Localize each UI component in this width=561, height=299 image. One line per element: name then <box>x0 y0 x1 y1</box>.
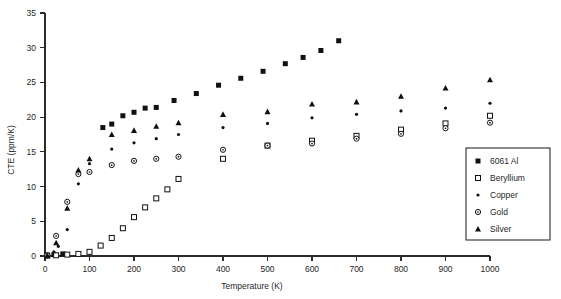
marker-open-square <box>132 215 137 220</box>
marker-filled-square <box>143 106 148 111</box>
marker-open-circle-dot <box>176 154 181 159</box>
marker-small-dot <box>221 126 224 129</box>
marker-open-circle-dot <box>354 136 359 141</box>
y-tick-label: 20 <box>27 112 37 122</box>
legend-label: Gold <box>490 207 508 217</box>
marker-filled-square <box>194 91 199 96</box>
marker-small-dot <box>155 137 158 140</box>
marker-small-dot <box>476 193 479 196</box>
marker-open-circle-dot <box>65 199 70 204</box>
marker-small-dot <box>399 109 402 112</box>
y-tick-label: 30 <box>27 43 37 53</box>
x-tick-label: 100 <box>82 264 96 274</box>
marker-open-square <box>154 196 159 201</box>
marker-filled-square <box>100 125 105 130</box>
x-tick-label: 0 <box>43 264 48 274</box>
y-tick-label: 10 <box>27 182 37 192</box>
marker-small-dot <box>310 116 313 119</box>
marker-open-circle-dot <box>309 141 314 146</box>
marker-small-dot <box>488 102 491 105</box>
marker-open-circle-dot <box>443 126 448 131</box>
marker-filled-square <box>318 48 323 53</box>
marker-filled-square <box>132 110 137 115</box>
marker-open-square <box>87 249 92 254</box>
y-tick-label: 0 <box>31 251 36 261</box>
marker-small-dot <box>132 141 135 144</box>
marker-filled-square <box>476 159 481 164</box>
marker-filled-square <box>172 98 177 103</box>
marker-filled-square <box>154 105 159 110</box>
marker-open-circle-dot <box>131 158 136 163</box>
marker-small-dot <box>77 182 80 185</box>
marker-open-square <box>143 205 148 210</box>
legend-label: Silver <box>490 224 511 234</box>
marker-filled-square <box>336 38 341 43</box>
marker-open-square <box>98 243 103 248</box>
x-tick-label: 200 <box>127 264 141 274</box>
y-axis-title: CTE (ppm/K) <box>6 125 16 175</box>
marker-small-dot <box>355 113 358 116</box>
marker-open-circle-dot <box>265 143 270 148</box>
marker-small-dot <box>110 147 113 150</box>
x-tick-label: 800 <box>394 264 408 274</box>
marker-open-circle-dot <box>154 156 159 161</box>
marker-open-square <box>221 156 226 161</box>
y-tick-label: 35 <box>27 8 37 18</box>
marker-open-circle-dot <box>87 169 92 174</box>
legend-label: 6061 Al <box>490 156 518 166</box>
marker-open-circle-dot <box>398 131 403 136</box>
marker-open-square <box>54 253 59 258</box>
x-tick-label: 500 <box>260 264 274 274</box>
marker-filled-square <box>238 76 243 81</box>
x-axis-title: Temperature (K) <box>221 281 283 291</box>
y-tick-label: 15 <box>27 147 37 157</box>
chart-legend[interactable]: 6061 AlBerylliumCopperGoldSilver <box>466 148 550 240</box>
marker-small-dot <box>266 122 269 125</box>
legend-label: Beryllium <box>490 173 525 183</box>
marker-open-square <box>488 113 493 118</box>
marker-small-dot <box>444 107 447 110</box>
chart-figure: 05101520253035 0100200300400500600700800… <box>0 0 561 299</box>
marker-open-circle-dot <box>109 162 114 167</box>
marker-open-square <box>65 252 70 257</box>
marker-open-circle-dot <box>475 209 480 214</box>
x-tick-label: 300 <box>171 264 185 274</box>
legend-label: Copper <box>490 190 518 200</box>
marker-small-dot <box>177 133 180 136</box>
marker-open-circle-dot <box>54 233 59 238</box>
cte-temperature-scatter-plot: 05101520253035 0100200300400500600700800… <box>0 0 561 299</box>
marker-open-square <box>443 121 448 126</box>
x-tick-label: 1000 <box>481 264 500 274</box>
marker-open-square <box>76 251 81 256</box>
x-tick-label: 900 <box>438 264 452 274</box>
marker-open-square <box>165 187 170 192</box>
y-tick-label: 25 <box>27 77 37 87</box>
marker-open-circle-dot <box>220 147 225 152</box>
marker-filled-square <box>301 55 306 60</box>
x-tick-label: 700 <box>349 264 363 274</box>
marker-open-square <box>109 235 114 240</box>
marker-small-dot <box>66 228 69 231</box>
marker-filled-square <box>283 61 288 66</box>
marker-small-dot <box>52 250 55 253</box>
x-tick-label: 600 <box>305 264 319 274</box>
y-tick-label: 5 <box>31 216 36 226</box>
marker-open-square <box>476 176 481 181</box>
marker-open-circle-dot <box>487 120 492 125</box>
marker-open-square <box>176 176 181 181</box>
marker-filled-square <box>109 122 114 127</box>
x-tick-label: 400 <box>216 264 230 274</box>
marker-open-square <box>120 226 125 231</box>
marker-filled-square <box>261 69 266 74</box>
marker-filled-square <box>216 83 221 88</box>
marker-filled-square <box>120 113 125 118</box>
marker-small-dot <box>88 162 91 165</box>
